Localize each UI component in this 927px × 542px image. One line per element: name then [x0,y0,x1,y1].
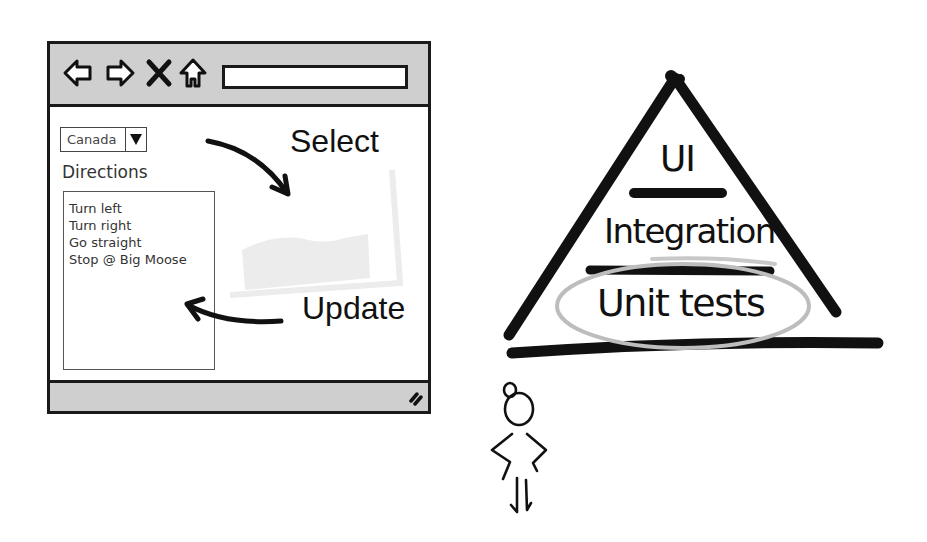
update-annotation: Update [302,290,405,327]
country-select[interactable]: Canada [60,127,147,152]
stick-figure-icon [492,383,546,512]
forward-arrow-icon[interactable] [102,56,136,90]
browser-window-mockup: Canada Directions Turn left Turn right G… [47,41,431,414]
pyramid-level-integration: Integration [604,211,775,251]
list-item[interactable]: Turn left [69,200,214,217]
home-icon[interactable] [178,56,208,90]
browser-toolbar [50,44,428,107]
resize-grip-icon[interactable] [408,390,424,406]
pyramid-level-ui: UI [660,138,695,179]
list-item[interactable]: Go straight [69,234,214,251]
directions-label: Directions [62,162,148,182]
list-item[interactable]: Turn right [69,217,214,234]
list-item[interactable]: Stop @ Big Moose [69,251,214,268]
back-arrow-icon[interactable] [62,56,96,90]
pyramid-level-unit-tests: Unit tests [597,281,764,325]
directions-listbox[interactable]: Turn left Turn right Go straight Stop @ … [63,191,215,370]
dropdown-arrow-icon[interactable] [125,128,146,151]
stop-x-icon[interactable] [142,56,176,90]
browser-statusbar [50,380,428,411]
country-select-value: Canada [61,128,125,151]
address-bar[interactable] [222,65,408,89]
divider-integration-unit [590,270,770,271]
select-annotation: Select [290,123,379,160]
